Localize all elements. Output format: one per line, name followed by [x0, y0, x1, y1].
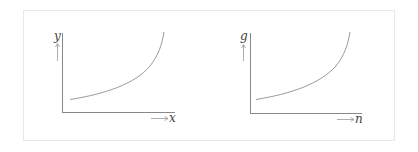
x-label-right: n	[355, 112, 363, 126]
y-label-right: g	[240, 29, 248, 43]
curve-left	[70, 32, 164, 100]
diagram-canvas: y x g n	[0, 0, 418, 152]
graph-right: g n	[240, 29, 363, 126]
graph-left: y x	[53, 29, 176, 125]
y-label-left: y	[53, 29, 61, 43]
curve-right	[256, 32, 350, 100]
x-label-left: x	[169, 111, 176, 125]
